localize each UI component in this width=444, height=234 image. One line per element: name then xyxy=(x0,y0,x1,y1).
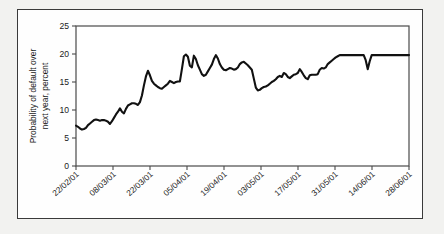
y-axis-tick-label: 5 xyxy=(64,133,69,143)
y-axis-title: Probability of default over next year, p… xyxy=(28,49,50,144)
y-axis-tick-label: 10 xyxy=(59,105,69,115)
x-axis-tick-label: 08/03/01 xyxy=(87,169,118,198)
x-axis-tick-label: 05/04/01 xyxy=(161,169,192,198)
y-axis-tick-label: 25 xyxy=(59,21,69,31)
y-axis-tick-label: 0 xyxy=(64,161,69,171)
x-axis-tick-label: 14/06/01 xyxy=(346,169,377,198)
y-axis: 0510152025 xyxy=(59,21,76,171)
y-axis-title-line-2: next year, percent xyxy=(40,62,50,129)
x-axis-tick-label: 19/04/01 xyxy=(198,169,229,198)
y-axis-tick-label: 15 xyxy=(59,77,69,87)
x-axis-tick-label: 22/03/01 xyxy=(124,169,155,198)
y-axis-title-line-1: Probability of default over xyxy=(28,49,38,144)
x-axis-tick-label: 31/05/01 xyxy=(309,169,340,198)
plot-area-background xyxy=(76,26,409,166)
x-axis: 22/02/0108/03/0122/03/0105/04/0119/04/01… xyxy=(50,166,414,198)
x-axis-tick-label: 03/05/01 xyxy=(235,169,266,198)
x-axis-tick-label: 28/06/01 xyxy=(383,169,414,198)
x-axis-tick-label: 22/02/01 xyxy=(50,169,81,198)
y-axis-tick-label: 20 xyxy=(59,49,69,59)
default-probability-line-chart: 0510152025 22/02/0108/03/0122/03/0105/04… xyxy=(0,0,444,234)
x-axis-tick-label: 17/05/01 xyxy=(272,169,303,198)
